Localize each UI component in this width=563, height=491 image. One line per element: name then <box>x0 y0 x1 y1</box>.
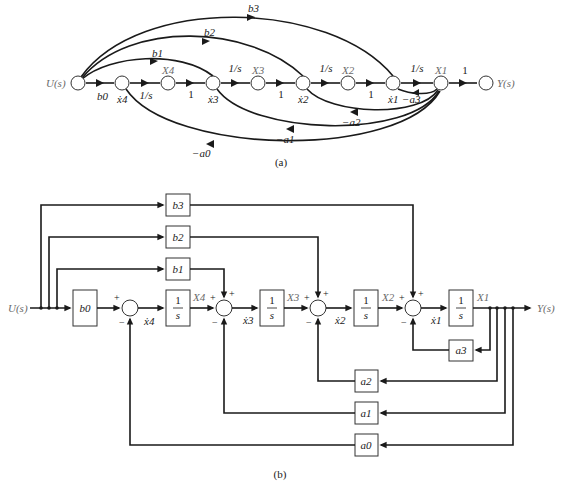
label-x4: X4 <box>161 64 175 76</box>
label-x3-dot: ẋ3 <box>207 93 219 105</box>
svg-text:s: s <box>270 309 274 321</box>
label-u: U(s) <box>46 77 66 90</box>
svg-text:1: 1 <box>175 294 181 306</box>
sum-junction-2 <box>216 300 232 316</box>
svg-text:+: + <box>229 288 235 299</box>
label-x4-dot: ẋ4 <box>116 93 128 105</box>
wire-to-a3 <box>476 308 490 350</box>
wire-to-a0 <box>381 308 513 445</box>
diagram-canvas: U(s) Y(s) ẋ4 X4 ẋ3 X3 ẋ2 X2 ẋ1 X1 b0 1/s… <box>0 0 563 491</box>
wire-to-b2 <box>49 237 163 308</box>
node-u <box>71 76 85 90</box>
gain-int-1: 1/s <box>140 89 153 101</box>
block-a3-label: a3 <box>456 344 468 356</box>
sum-junction-1 <box>122 300 138 316</box>
svg-text:1: 1 <box>269 294 275 306</box>
svg-text:s: s <box>364 309 368 321</box>
signal-x1: X1 <box>476 291 489 303</box>
gain-int-2: 1/s <box>229 62 242 74</box>
node-x2-dot <box>296 76 310 90</box>
signal-x3-dot: ẋ3 <box>242 314 254 326</box>
gain-minus-a0: −a0 <box>192 147 211 159</box>
gain-1-b: 1 <box>278 88 284 100</box>
sfg-gains: b0 1/s 1 1/s 1 1/s 1 1/s 1 b1 b2 b3 −a3 … <box>97 2 468 159</box>
wire-a1-sum2 <box>224 319 355 413</box>
gain-b3: b3 <box>248 2 260 14</box>
node-x4-dot <box>115 76 129 90</box>
signal-flow-graph: U(s) Y(s) ẋ4 X4 ẋ3 X3 ẋ2 X2 ẋ1 X1 b0 1/s… <box>46 2 515 169</box>
block-a0-label: a0 <box>361 439 373 451</box>
signal-x4-dot: ẋ4 <box>143 315 155 327</box>
label-x1: X1 <box>434 64 447 76</box>
block-a1-label: a1 <box>361 407 372 419</box>
block-diagram: U(s) b3 b2 b1 b0 <box>8 194 555 481</box>
gain-minus-a1: −a1 <box>276 133 294 145</box>
wire-a2-sum3 <box>318 319 355 381</box>
wire-a0-sum1 <box>130 319 355 445</box>
label-x2-dot: ẋ2 <box>297 93 309 105</box>
label-x2: X2 <box>341 64 355 76</box>
svg-text:+: + <box>114 292 120 303</box>
gain-1-d: 1 <box>462 64 468 76</box>
caption-a: (a) <box>275 156 288 169</box>
svg-text:−: − <box>306 317 312 328</box>
gain-int-4: 1/s <box>411 62 424 74</box>
gain-b1: b1 <box>152 47 163 59</box>
svg-text:s: s <box>176 309 180 321</box>
label-u-b: U(s) <box>8 302 28 315</box>
signal-x1-dot: ẋ1 <box>430 314 441 326</box>
gain-minus-a2: −a2 <box>342 116 361 128</box>
gain-b0: b0 <box>97 90 109 102</box>
label-y: Y(s) <box>497 77 515 90</box>
svg-text:+: + <box>399 292 405 303</box>
signal-x2-dot: ẋ2 <box>334 314 346 326</box>
signal-x2: X2 <box>381 291 395 303</box>
block-b1-label: b1 <box>173 263 184 275</box>
node-x4 <box>161 76 175 90</box>
arc-b2 <box>82 36 303 78</box>
node-x1 <box>434 76 448 90</box>
node-x1-dot <box>386 76 400 90</box>
svg-text:+: + <box>304 292 310 303</box>
signal-x3: X3 <box>286 291 300 303</box>
wire-to-b3 <box>41 205 163 308</box>
svg-text:1: 1 <box>363 294 369 306</box>
node-y <box>479 76 493 90</box>
label-x1-dot: ẋ1 <box>387 93 398 105</box>
wire-to-a1 <box>381 308 505 413</box>
svg-text:−: − <box>401 317 407 328</box>
svg-text:1: 1 <box>458 294 464 306</box>
gain-b2: b2 <box>204 26 216 38</box>
block-b3-label: b3 <box>173 199 185 211</box>
label-x3: X3 <box>251 64 265 76</box>
wire-b2-sum3 <box>190 237 318 297</box>
svg-text:−: − <box>212 317 218 328</box>
gain-minus-a3: −a3 <box>402 93 421 105</box>
node-x3 <box>251 76 265 90</box>
svg-text:s: s <box>459 309 463 321</box>
block-b2-label: b2 <box>173 231 185 243</box>
sum-junction-4 <box>405 300 421 316</box>
svg-text:+: + <box>418 288 424 299</box>
arc-b1 <box>82 59 213 79</box>
svg-text:+: + <box>210 292 216 303</box>
svg-text:+: + <box>323 288 329 299</box>
block-a2-label: a2 <box>361 375 373 387</box>
gain-int-3: 1/s <box>320 62 333 74</box>
svg-text:−: − <box>119 317 125 328</box>
gain-1-c: 1 <box>368 88 374 100</box>
node-x3-dot <box>206 76 220 90</box>
gain-1-a: 1 <box>188 88 194 100</box>
forward-path <box>86 79 477 87</box>
block-b0-label: b0 <box>80 302 92 314</box>
sum-junction-3 <box>310 300 326 316</box>
node-x2 <box>341 76 355 90</box>
label-y-b: Y(s) <box>537 302 555 315</box>
signal-x4: X4 <box>192 291 206 303</box>
caption-b: (b) <box>274 468 287 481</box>
